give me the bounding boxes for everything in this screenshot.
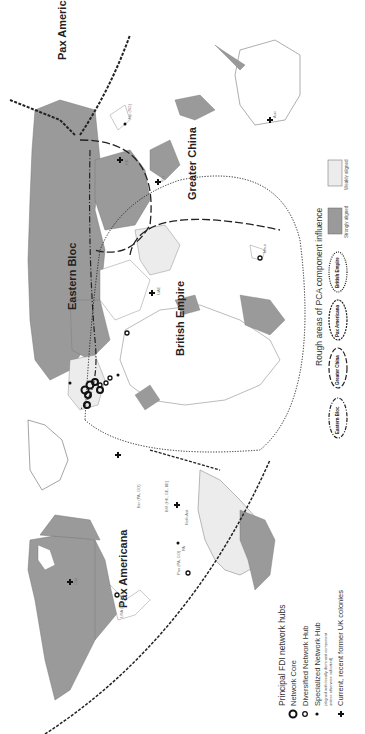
canada-top xyxy=(40,515,100,540)
pca-oval-label-eastern-bloc: Eastern Bloc xyxy=(335,406,340,434)
swatch-label-weakly-aligned: Weakly aligned xyxy=(344,160,349,190)
hub-label-pa: PA xyxy=(181,546,186,551)
hub-label-maur: Maur xyxy=(262,244,267,253)
legend-network-core: Network Core xyxy=(289,660,298,706)
british-empire-latam-line xyxy=(150,450,220,470)
hub-label-aus: Aus xyxy=(272,111,277,118)
strongly-aligned-swatch xyxy=(328,208,342,234)
region-label-eastern-bloc: Eastern Bloc xyxy=(66,243,78,310)
legend-uk-colonies: Current, recent former UK colonies xyxy=(336,590,345,706)
hub-label-hk: HK xyxy=(124,159,129,165)
hub-label-uae: UAE xyxy=(156,287,161,295)
hubs-legend-title: Principal FDI network hubs xyxy=(277,604,287,706)
weakly-aligned-swatch xyxy=(328,160,342,186)
region-label-british-empire: British Empire xyxy=(174,281,186,356)
legend-note-line2: unless otherwise indicated) xyxy=(328,658,333,706)
hub-label-sin: Sin xyxy=(160,176,165,182)
swatch-label-strongly-aligned: Strongly aligned xyxy=(344,206,349,238)
hub-label-ber: Ber (PA, GO) xyxy=(136,485,141,508)
diversified-hub-icon xyxy=(303,712,308,717)
pca-oval-label-pax-americana: Pax Americana xyxy=(335,305,340,337)
legend-specialized-hub: Specialized Network Hub xyxy=(313,622,322,706)
world-map-graphic xyxy=(0,0,365,734)
hub-label-can: Can xyxy=(73,578,78,585)
region-label-pax-americana-east: Pax Americana xyxy=(56,0,68,60)
pca-legend-title: Rough areas of PCA component influence xyxy=(314,208,324,366)
hub-label-neth-ant: Neth Ant xyxy=(184,510,189,525)
hub-label-usa: USA (FR, GE) xyxy=(119,593,124,618)
hub-label-pan: Pan (PA, GO) xyxy=(176,551,181,575)
network-core-icon xyxy=(290,711,297,718)
specialized-hub-icon xyxy=(315,712,318,715)
region-label-greater-china: Greater China xyxy=(186,127,198,200)
india xyxy=(135,225,180,275)
pax-americana-east-text: Pax Americana xyxy=(56,0,68,60)
legend-diversified-hub: Diversified Network Hub xyxy=(301,626,310,706)
south-america-strong xyxy=(240,510,275,590)
greenland xyxy=(28,420,68,490)
pca-oval-label-greater-china: Greater China xyxy=(335,355,340,385)
middle-east xyxy=(100,260,150,320)
hub-label-jap: Jap (SG) xyxy=(127,104,132,120)
uk-colony-cross-icon xyxy=(338,711,344,717)
se-asia xyxy=(150,140,180,180)
australia xyxy=(235,40,300,125)
hub-label-bvi: BVI (HK, GE, BE) xyxy=(164,481,169,512)
pca-oval-label-british-empire: British Empire xyxy=(335,257,340,288)
fdi-network-map: Pax Americana Pax Americana Eastern Bloc… xyxy=(0,0,365,734)
indonesia xyxy=(175,95,215,120)
china xyxy=(95,150,150,230)
